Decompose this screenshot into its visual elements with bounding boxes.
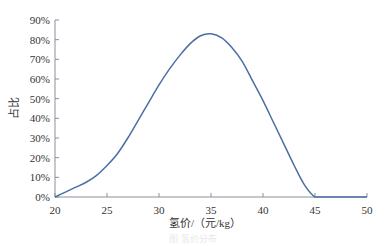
y-axis-title: 占比 [7,97,20,119]
y-tick-label: 70% [30,53,50,65]
x-tick-label: 30 [154,204,166,216]
figure-caption: 图 氢价分布 [0,232,386,245]
x-tick-label: 50 [362,204,374,216]
series-line [55,34,367,197]
x-tick-label: 20 [50,204,62,216]
x-tick-label: 40 [258,204,270,216]
y-tick-label: 0% [35,191,50,203]
y-tick-label: 20% [30,152,50,164]
y-tick-label: 80% [30,34,50,46]
chart: 0%10%20%30%40%50%60%70%80%90% 2025303540… [0,0,386,246]
x-tick-label: 35 [206,204,218,216]
y-tick-label: 40% [30,112,50,124]
x-axis-title: 氢价/（元/kg） [169,216,241,229]
y-tick-label: 10% [30,171,50,183]
y-tick-label: 60% [30,73,50,85]
y-tick-label: 50% [30,93,50,105]
x-tick-label: 45 [310,204,322,216]
x-tick-label: 25 [102,204,114,216]
y-tick-label: 30% [30,132,50,144]
y-axis: 0%10%20%30%40%50%60%70%80%90% [30,14,59,203]
y-tick-label: 90% [30,14,50,26]
